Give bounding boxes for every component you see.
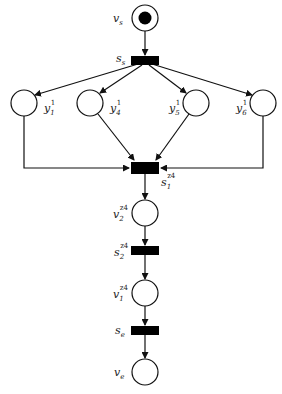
label-se: se bbox=[115, 324, 125, 339]
label-s1: s1z4 bbox=[161, 172, 176, 191]
label-y6: y61 bbox=[235, 99, 247, 117]
place-y1 bbox=[11, 90, 37, 116]
arc-y4-s1 bbox=[98, 114, 134, 160]
token-icon bbox=[139, 12, 152, 25]
place-y4 bbox=[77, 90, 103, 116]
place-v1 bbox=[132, 280, 158, 306]
place-y6 bbox=[250, 90, 276, 116]
label-y5: y51 bbox=[168, 99, 180, 117]
transition-s2 bbox=[131, 246, 159, 255]
arc-y5-s1 bbox=[156, 114, 189, 160]
arc-ss-y6 bbox=[152, 64, 252, 95]
label-vs: vs bbox=[113, 12, 123, 27]
place-v2 bbox=[132, 200, 158, 226]
arc-y1-s1 bbox=[24, 116, 129, 168]
transition-se bbox=[131, 326, 159, 335]
label-v2: v2z4 bbox=[113, 204, 128, 223]
label-s2: s2z4 bbox=[114, 242, 129, 261]
petri-net-diagram: vs ss y11 y41 y51 y61 s1z4 v2z4 s2z4 v1z… bbox=[0, 0, 282, 394]
label-y1: y11 bbox=[43, 99, 55, 117]
label-y4: y41 bbox=[109, 99, 121, 117]
arc-y6-s1 bbox=[161, 116, 263, 168]
place-y5 bbox=[183, 90, 209, 116]
place-ve bbox=[132, 359, 158, 385]
transition-s1 bbox=[131, 162, 159, 174]
label-v1: v1z4 bbox=[113, 284, 128, 303]
transition-ss bbox=[131, 56, 159, 65]
label-ss: ss bbox=[116, 52, 126, 67]
arcs bbox=[24, 31, 263, 358]
label-ve: ve bbox=[114, 366, 124, 381]
